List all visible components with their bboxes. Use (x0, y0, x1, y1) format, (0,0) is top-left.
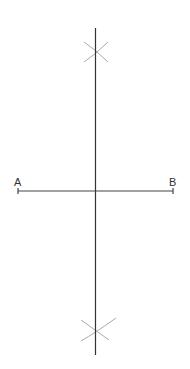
construction-canvas (0, 0, 190, 369)
bottom-arcs (81, 318, 116, 341)
bottom-arc-from-b (81, 318, 116, 341)
point-label-a: A (14, 177, 21, 188)
point-label-b: B (169, 177, 176, 188)
